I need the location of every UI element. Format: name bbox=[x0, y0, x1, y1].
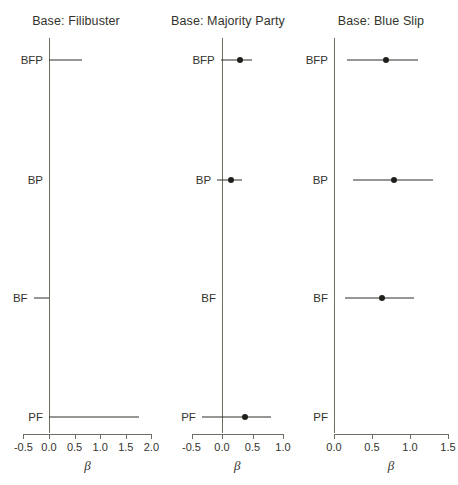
zero-reference-line bbox=[222, 38, 223, 433]
x-axis-tick-label: -0.5 bbox=[182, 441, 201, 453]
x-axis-tick-label: 1.5 bbox=[118, 441, 133, 453]
x-axis-tick-label: -0.5 bbox=[14, 441, 33, 453]
panel-title: Base: Majority Party bbox=[152, 14, 304, 28]
estimate-point-bf bbox=[379, 295, 385, 301]
x-axis-line bbox=[23, 434, 151, 435]
estimate-point-bp bbox=[391, 177, 397, 183]
panel-3: Base: Blue SlipBFPBPBFPF0.00.51.01.5β bbox=[304, 0, 458, 485]
x-axis-tick bbox=[126, 434, 127, 439]
zero-reference-line bbox=[49, 38, 50, 433]
x-axis-tick-label: 0.5 bbox=[245, 441, 260, 453]
row-label-bf: BF bbox=[152, 292, 216, 304]
x-axis-tick bbox=[49, 434, 50, 439]
row-label-bf: BF bbox=[0, 292, 28, 304]
estimate-point-bp bbox=[228, 177, 234, 183]
x-axis-title: β bbox=[234, 458, 240, 474]
row-label-bp: BP bbox=[0, 174, 43, 186]
row-label-bfp: BFP bbox=[0, 54, 43, 66]
x-axis-tick bbox=[222, 434, 223, 439]
row-label-bfp: BFP bbox=[152, 54, 215, 66]
row-label-bf: BF bbox=[304, 292, 328, 304]
panel-1: Base: FilibusterBFPBPBFPF-0.50.00.51.01.… bbox=[0, 0, 152, 485]
x-axis-tick bbox=[75, 434, 76, 439]
panel-title: Base: Blue Slip bbox=[304, 14, 458, 28]
row-label-bfp: BFP bbox=[304, 54, 328, 66]
row-label-bp: BP bbox=[304, 174, 328, 186]
x-axis-tick-label: 0.0 bbox=[326, 441, 341, 453]
estimate-point-bfp bbox=[383, 57, 389, 63]
x-axis-tick-label: 0.0 bbox=[214, 441, 229, 453]
x-axis-tick bbox=[334, 434, 335, 439]
x-axis-tick bbox=[448, 434, 449, 439]
x-axis-tick-label: 1.0 bbox=[402, 441, 417, 453]
row-label-pf: PF bbox=[152, 411, 196, 423]
x-axis-title: β bbox=[388, 458, 394, 474]
confidence-interval-pf bbox=[202, 417, 271, 418]
x-axis-tick-label: 0.5 bbox=[364, 441, 379, 453]
panel-title: Base: Filibuster bbox=[0, 14, 152, 28]
x-axis-tick bbox=[192, 434, 193, 439]
confidence-interval-bfp bbox=[49, 60, 82, 61]
coefficient-plot-figure: Base: FilibusterBFPBPBFPF-0.50.00.51.01.… bbox=[0, 0, 458, 485]
estimate-point-bfp bbox=[237, 57, 243, 63]
panel-2: Base: Majority PartyBFPBPBFPF-0.50.00.51… bbox=[152, 0, 304, 485]
row-label-pf: PF bbox=[0, 411, 43, 423]
estimate-point-pf bbox=[242, 414, 248, 420]
x-axis-line bbox=[334, 434, 448, 435]
x-axis-tick-label: 0.0 bbox=[41, 441, 56, 453]
x-axis-tick-label: 1.5 bbox=[440, 441, 455, 453]
x-axis-tick-label: 0.5 bbox=[67, 441, 82, 453]
x-axis-tick bbox=[410, 434, 411, 439]
x-axis-tick-label: 1.0 bbox=[275, 441, 290, 453]
confidence-interval-bf bbox=[34, 298, 49, 299]
row-label-bp: BP bbox=[152, 174, 211, 186]
x-axis-tick bbox=[253, 434, 254, 439]
x-axis-tick bbox=[372, 434, 373, 439]
x-axis-tick bbox=[23, 434, 24, 439]
x-axis-line bbox=[192, 434, 284, 435]
zero-reference-line bbox=[334, 38, 335, 433]
x-axis-title: β bbox=[84, 458, 90, 474]
x-axis-tick bbox=[100, 434, 101, 439]
x-axis-tick-label: 1.0 bbox=[93, 441, 108, 453]
row-label-pf: PF bbox=[304, 411, 328, 423]
confidence-interval-pf bbox=[49, 417, 139, 418]
x-axis-tick bbox=[283, 434, 284, 439]
